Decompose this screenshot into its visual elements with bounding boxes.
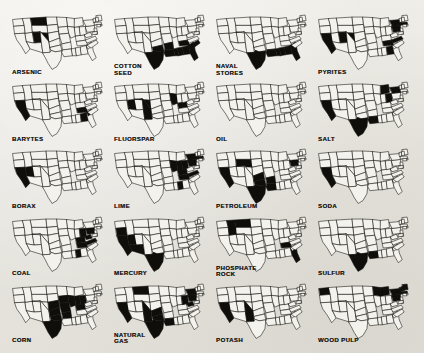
state-mi (279, 85, 288, 95)
state-mt (31, 286, 48, 294)
state-ct (97, 92, 100, 94)
state-mn (159, 84, 170, 94)
state-ia (58, 94, 68, 102)
state-mn (159, 17, 170, 27)
map-cell-naval-stores: NAVAL STORES (212, 10, 314, 77)
state-mi (177, 18, 186, 28)
state-mn (57, 151, 68, 161)
state-mt (337, 219, 354, 227)
state-tx (43, 185, 62, 204)
state-wa (217, 86, 228, 94)
state-nh (96, 84, 99, 89)
state-or (116, 93, 127, 101)
state-tx (43, 50, 62, 69)
state-nh (402, 286, 405, 291)
map-cell-coal: COAL (8, 212, 110, 279)
state-nd (352, 151, 363, 159)
map-label-arsenic: ARSENIC (12, 69, 42, 76)
map-arsenic (10, 10, 106, 77)
state-mi (75, 85, 84, 95)
state-la (368, 49, 379, 57)
state-mt (133, 151, 150, 159)
state-nh (402, 219, 405, 224)
state-wa (13, 287, 24, 295)
state-az (231, 311, 247, 322)
map-cell-petroleum: PETROLEUM (212, 144, 314, 211)
state-ia (262, 228, 272, 236)
state-ct (97, 24, 100, 26)
state-nd (352, 219, 363, 227)
state-tx (349, 185, 368, 204)
state-mn (363, 151, 374, 161)
state-tx (247, 185, 266, 204)
state-or (320, 25, 331, 33)
state-mt (235, 219, 252, 227)
state-az (27, 109, 43, 120)
state-wa (115, 19, 126, 27)
state-tx (349, 252, 368, 271)
state-tx (349, 319, 368, 338)
state-tx (145, 118, 164, 137)
map-cell-mercury: MERCURY (110, 212, 212, 279)
state-mn (57, 84, 68, 94)
state-tx (43, 319, 62, 338)
state-la (62, 116, 73, 124)
state-or (14, 227, 25, 235)
state-nh (96, 17, 99, 22)
state-mi (381, 152, 390, 162)
us-outline-map (316, 10, 412, 77)
state-or (320, 93, 331, 101)
state-la (164, 49, 175, 57)
state-mn (363, 84, 374, 94)
state-wa (13, 220, 24, 228)
state-or (14, 25, 25, 33)
state-or (14, 93, 25, 101)
state-nd (46, 219, 57, 227)
state-az (333, 109, 349, 120)
state-wi (373, 85, 382, 95)
state-wi (373, 286, 382, 296)
map-label-phosphate-rock: PHOSPHATE ROCK (216, 265, 257, 278)
state-wi (271, 152, 280, 162)
state-la (164, 116, 175, 124)
state-ct (199, 24, 202, 26)
state-wi (169, 286, 178, 296)
state-nd (46, 84, 57, 92)
state-wa (319, 220, 330, 228)
state-nd (46, 151, 57, 159)
state-wi (169, 18, 178, 28)
state-wa (13, 86, 24, 94)
state-nh (300, 84, 303, 89)
state-az (129, 311, 145, 322)
state-mt (337, 151, 354, 159)
state-or (320, 294, 331, 302)
state-or (320, 227, 331, 235)
state-tx (247, 50, 266, 69)
state-ct (301, 293, 304, 295)
state-or (218, 294, 229, 302)
map-label-borax: BORAX (12, 203, 36, 210)
state-mi (177, 286, 186, 296)
state-la (266, 49, 277, 57)
state-ct (301, 24, 304, 26)
state-nd (148, 286, 159, 294)
state-la (62, 250, 73, 258)
state-wa (115, 153, 126, 161)
state-ct (403, 24, 406, 26)
state-tx (349, 118, 368, 137)
state-wa (217, 153, 228, 161)
state-wi (67, 85, 76, 95)
state-ia (364, 295, 374, 303)
state-nd (250, 286, 261, 294)
state-ia (58, 26, 68, 34)
state-nh (402, 84, 405, 89)
state-az (129, 42, 145, 53)
state-mt (31, 151, 48, 159)
map-cell-pyrites: PYRITES (314, 10, 416, 77)
state-ct (301, 92, 304, 94)
state-or (116, 294, 127, 302)
state-tx (145, 50, 164, 69)
state-wa (217, 287, 228, 295)
state-mi (381, 18, 390, 28)
state-nh (96, 151, 99, 156)
